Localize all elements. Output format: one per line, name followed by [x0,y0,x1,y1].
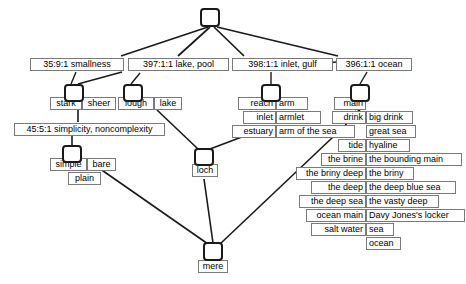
word-box-mere[interactable]: mere [198,260,228,273]
word-box-the-bounding-main[interactable]: the bounding main [366,153,462,166]
sense-label-lake-pool[interactable]: 397:1:1 lake, pool [128,58,229,71]
word-box-plain[interactable]: plain [68,172,101,185]
word-box-the-deep-sea[interactable]: the deep sea [299,195,366,208]
word-box-sheer[interactable]: sheer [82,97,116,110]
word-box-the-vasty-deep[interactable]: the vasty deep [366,195,439,208]
word-box-bare[interactable]: bare [87,158,116,171]
word-box-hyaline[interactable]: hyaline [366,139,410,152]
word-box-inlet[interactable]: inlet [243,111,276,124]
edge-ocean-to-node [360,72,367,84]
synset-node-loch[interactable] [194,148,214,166]
word-box-drink[interactable]: drink [332,111,366,124]
word-box-salt-water[interactable]: salt water [311,223,366,236]
sense-label-ocean[interactable]: 396:1:1 ocean [336,58,412,71]
edge-loch-to-mere [204,179,213,243]
word-box-ocean-main[interactable]: ocean main [306,209,366,222]
word-box-the-deep-blue-sea[interactable]: the deep blue sea [366,181,456,194]
edge-root-to-ocean [217,27,338,56]
word-box-the-briny-deep[interactable]: the briny deep [296,167,366,180]
edge-smallness-to-node [71,72,76,84]
diagram-canvas: 35:9:1 smallness 397:1:1 lake, pool 398:… [0,0,466,284]
sense-label-simplicity[interactable]: 45:5:1 simplicity, noncomplexity [14,123,165,136]
sense-label-smallness[interactable]: 35:9:1 smallness [30,58,124,71]
edge-lake-to-node [131,73,140,84]
edge-smallness-to-node-b [78,72,122,84]
synset-node-simplicity[interactable] [62,145,82,163]
sense-label-inlet-gulf[interactable]: 398:1:1 inlet, gulf [232,58,333,71]
word-box-estuary[interactable]: estuary [232,125,276,138]
word-box-davy-joness-locker[interactable]: Davy Jones's locker [366,209,465,222]
word-box-great-sea[interactable]: great sea [366,125,416,138]
word-box-armlet[interactable]: armlet [276,111,321,124]
word-box-the-deep[interactable]: the deep [311,181,366,194]
edge-root-to-inlet [214,27,244,56]
word-box-the-briny[interactable]: the briny [366,167,414,180]
word-box-arm-of-the-sea[interactable]: arm of the sea [276,125,355,138]
word-box-lake[interactable]: lake [154,97,182,110]
synset-node-lake[interactable] [123,84,143,102]
word-box-the-brine[interactable]: the brine [321,153,366,166]
word-box-ocean[interactable]: ocean [366,237,401,250]
edge-bare-to-mere [96,166,208,244]
word-box-sea[interactable]: sea [366,223,394,236]
synset-node-mere[interactable] [203,242,223,261]
synset-node-smallness[interactable] [64,84,84,102]
word-box-big-drink[interactable]: big drink [366,111,413,124]
root-node[interactable] [200,8,220,27]
word-box-tide[interactable]: tide [338,139,366,152]
synset-node-inlet[interactable] [261,84,281,102]
synset-node-ocean[interactable] [350,84,370,102]
